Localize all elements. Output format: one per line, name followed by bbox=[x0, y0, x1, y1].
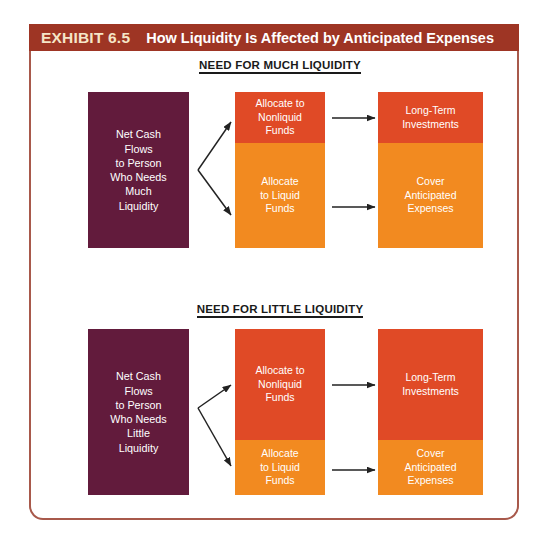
exhibit-frame bbox=[29, 24, 519, 520]
exhibit-label: EXHIBIT 6.5 bbox=[41, 29, 130, 47]
exhibit-header: EXHIBIT 6.5 How Liquidity Is Affected by… bbox=[29, 24, 519, 51]
exhibit-title: How Liquidity Is Affected by Anticipated… bbox=[146, 30, 494, 46]
